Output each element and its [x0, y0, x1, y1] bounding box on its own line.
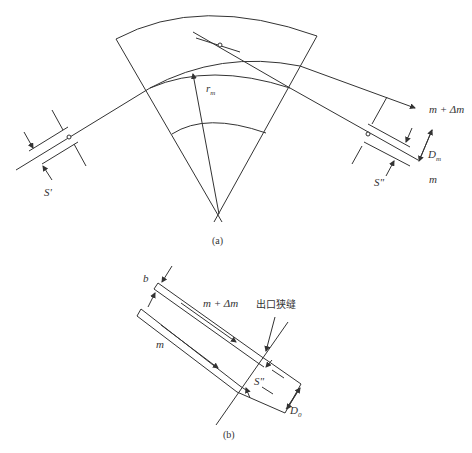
dispersion-label: Dm: [427, 148, 441, 163]
entrance-slit-point: [67, 135, 71, 139]
magnet-sector: [116, 16, 317, 222]
exit-slit-label: S": [374, 176, 385, 188]
heavy-channel: m + Δm: [154, 283, 262, 363]
exit-slit-arrow: [386, 161, 394, 176]
caption-b: (b): [223, 429, 235, 441]
ion-trajectories: [16, 32, 418, 170]
light-channel-bottom: [137, 316, 237, 392]
light-beam-path: [150, 75, 418, 160]
heavy-channel-top: [158, 283, 262, 357]
slit-width-arrow-top: [24, 132, 33, 148]
light-flow-arrow: [161, 325, 218, 368]
slit-width-arrow-bottom: [43, 166, 52, 180]
slit-tick-lower: [74, 144, 86, 166]
entrance-slit-label: S': [44, 186, 53, 198]
focus-point: [218, 43, 222, 47]
exit-slit-point: [366, 132, 370, 136]
collector-bottom: [237, 392, 285, 413]
caption-a: (a): [212, 235, 223, 247]
mass-spectrometer-diagram: rm S': [0, 0, 472, 453]
light-beam-label: m: [429, 173, 437, 185]
sector-right-edge: [214, 36, 317, 222]
entrance-slit: S': [24, 110, 86, 198]
slit-tick-upper: [52, 110, 63, 130]
exit-slit-cn-label: 出口狭缝: [256, 298, 296, 310]
exit-width-arrow: [406, 128, 412, 142]
width-arrow-bottom: [148, 293, 155, 307]
sector-outer-arc: [116, 16, 317, 39]
figure-b: m + Δm m b 出口狭缝 S": [137, 266, 302, 441]
figure-a: rm S': [16, 16, 464, 247]
width-arrow-top: [162, 266, 172, 282]
heavy-beam-label: m + Δm: [429, 103, 464, 115]
inner-line-2: [262, 387, 273, 394]
slit-plate-upper: [29, 127, 68, 151]
exit-plate-lower: [364, 142, 410, 166]
sector-inner-arc: [172, 123, 266, 134]
heavy-channel-end: [154, 283, 158, 289]
light-channel: m: [137, 309, 240, 392]
width-label: b: [143, 272, 149, 284]
dispersion-dimension: Dm: [419, 130, 441, 163]
light-beam-label-b: m: [156, 338, 164, 350]
entrance-beam: [16, 88, 150, 170]
slit-plate-lower: [42, 142, 78, 164]
radius-label: rm: [206, 82, 215, 97]
focal-line-a: [193, 32, 290, 88]
dispersion-ext-line: [372, 97, 387, 124]
exit-slit-label-b: S": [254, 375, 265, 387]
exit-tick: [352, 146, 362, 164]
exit-slit-pointer: [266, 317, 275, 351]
light-channel-end: [137, 309, 141, 316]
d0-label: D0: [289, 404, 302, 419]
heavy-beam-path: [150, 61, 415, 108]
collector-top: [268, 361, 301, 384]
heavy-beam-label-b: m + Δm: [203, 297, 238, 309]
exit-slit: S": [352, 97, 412, 188]
